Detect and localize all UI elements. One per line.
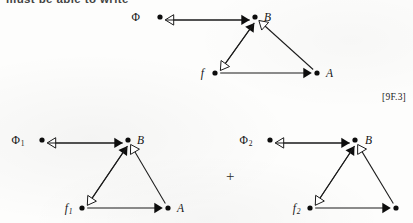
edge-f-to-a	[87, 203, 163, 213]
node-label-a: A	[176, 202, 185, 214]
edge-a-to-b	[259, 20, 313, 69]
arrowhead-hollow	[87, 195, 96, 205]
edge-shaft	[92, 146, 128, 199]
node-dot-b	[125, 137, 130, 142]
node-dot-f	[79, 205, 84, 210]
edge-shaft	[264, 25, 313, 69]
node-b: B	[352, 134, 372, 146]
edge-shaft	[319, 146, 354, 199]
node-label-phi: Φ	[12, 134, 21, 146]
node-label-b: B	[264, 11, 271, 23]
node-a	[393, 205, 398, 210]
node-dot-b	[252, 14, 257, 19]
edge-b-to-f	[315, 146, 354, 205]
node-f: f2	[293, 202, 313, 216]
node-dot-phi	[157, 14, 162, 19]
node-label-subscript-phi: 2	[249, 139, 253, 148]
node-label-phi: Φ	[132, 11, 141, 23]
node-label-f: f	[201, 67, 206, 80]
arrowhead-hollow	[315, 195, 324, 205]
node-dot-b	[352, 137, 357, 142]
commutative-diagram-bottom-right: Φ2Bf2	[233, 118, 413, 223]
edge-phi-to-b	[275, 138, 350, 148]
edge-a-to-b	[358, 144, 394, 203]
node-dot-a	[165, 205, 170, 210]
node-phi: Φ2	[240, 134, 273, 148]
node-dot-a	[393, 205, 398, 210]
node-dot-f	[212, 70, 217, 75]
diagram-bottom-left-svg: Φ1Bf1A	[0, 118, 220, 223]
node-dot-phi	[267, 137, 272, 142]
commutative-diagram-top: ΦBfA	[0, 0, 413, 100]
node-label-subscript-phi: 1	[21, 139, 25, 148]
edge-a-to-b	[130, 144, 165, 203]
edge-shaft	[225, 23, 255, 64]
node-label-subscript-f: 2	[297, 207, 301, 216]
arrowhead-solid	[341, 138, 350, 148]
arrowhead-solid	[382, 203, 391, 213]
arrowhead-hollow	[220, 61, 229, 71]
node-dot-f	[307, 205, 312, 210]
node-phi: Φ1	[12, 134, 45, 148]
arrowhead-solid	[241, 15, 250, 25]
edge-shaft	[362, 151, 394, 204]
diagram-top-svg: ΦBfA	[0, 0, 413, 100]
node-label-phi: Φ	[240, 134, 249, 146]
node-a: A	[314, 67, 334, 79]
node-f: f1	[65, 202, 85, 216]
arrowhead-solid	[154, 203, 163, 213]
nodes-group-bottom-right: Φ2Bf2	[240, 134, 399, 216]
node-a: A	[165, 202, 185, 214]
nodes-group-bottom-left: Φ1Bf1A	[12, 134, 185, 216]
node-label-a: A	[325, 67, 334, 79]
node-f: f	[201, 67, 218, 80]
arrowhead-solid	[303, 68, 312, 78]
node-label-b: B	[137, 134, 144, 146]
edge-shaft	[134, 151, 165, 204]
edge-phi-to-b	[47, 138, 123, 148]
node-phi: Φ	[132, 11, 163, 23]
edge-f-to-a	[220, 68, 312, 78]
page-canvas: must be able to write [9F.3] + ΦBfA Φ1Bf…	[0, 0, 413, 223]
edge-phi-to-b	[165, 15, 250, 25]
node-b: B	[125, 134, 144, 146]
edge-b-to-f	[220, 23, 254, 71]
edges-group-top	[165, 15, 313, 78]
node-label-subscript-f: 1	[69, 207, 73, 216]
node-dot-phi	[39, 137, 44, 142]
diagram-bottom-right-svg: Φ2Bf2	[233, 118, 413, 223]
node-dot-a	[314, 70, 319, 75]
arrowhead-solid	[114, 138, 123, 148]
node-label-b: B	[365, 134, 372, 146]
edge-b-to-f	[87, 146, 127, 205]
edge-f-to-a	[315, 203, 391, 213]
commutative-diagram-bottom-left: Φ1Bf1A	[0, 118, 220, 223]
